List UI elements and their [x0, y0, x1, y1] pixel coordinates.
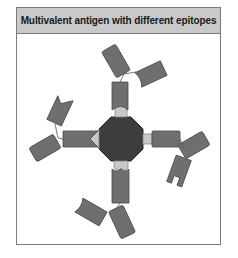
antibody-bottom	[75, 169, 136, 239]
antibody-right	[152, 131, 210, 187]
antibody-top	[102, 44, 167, 110]
antibody-left	[29, 94, 98, 162]
multivalent-antigen	[99, 117, 143, 161]
epitope-right-icon	[143, 134, 152, 144]
antigen-antibody-diagram	[0, 0, 238, 258]
